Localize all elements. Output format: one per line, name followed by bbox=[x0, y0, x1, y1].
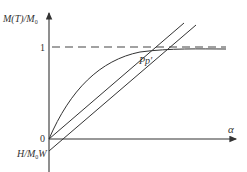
y-axis-label: M(T)/M0 bbox=[2, 13, 38, 25]
line-through-origin bbox=[49, 23, 184, 139]
tick-one-label: 1 bbox=[40, 42, 45, 53]
tick-zero-label: 0 bbox=[40, 133, 45, 144]
magnetization-diagram: M(T)/M0 1 0 H/M0W α Pp′ bbox=[0, 0, 247, 172]
lower-label: H/M0W bbox=[16, 148, 48, 160]
shifted-line bbox=[49, 25, 196, 151]
x-axis-label: α bbox=[228, 123, 234, 135]
intersection-label: Pp′ bbox=[138, 55, 153, 66]
